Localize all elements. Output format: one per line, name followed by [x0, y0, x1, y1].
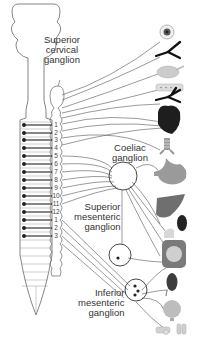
- svg-text:5: 5: [54, 152, 58, 159]
- heart-icon: [158, 106, 180, 134]
- svg-text:8: 8: [54, 176, 58, 183]
- spleen-icon: [177, 215, 187, 231]
- inferior-mesenteric-ganglion-label: Inferior mesenteric ganglion: [78, 288, 124, 318]
- preganglionic-fibers: [23, 124, 52, 238]
- liver-icon: [156, 194, 185, 218]
- svg-text:2: 2: [54, 224, 58, 231]
- sympathetic-nervous-system-diagram: 1 2 3 4 5 6 7 8 9 10 11 12 1 2 3: [0, 0, 197, 351]
- superior-mesenteric-ganglion-label: Superior mesenteric ganglion: [74, 202, 120, 232]
- inferior-mesenteric-ganglion: [125, 279, 147, 301]
- svg-text:1: 1: [54, 121, 58, 128]
- svg-text:11: 11: [53, 200, 60, 207]
- svg-text:3: 3: [54, 136, 58, 143]
- coeliac-ganglion-label: Coeliac ganglion: [112, 143, 148, 163]
- svg-text:6: 6: [54, 160, 58, 167]
- bladder-icon: [163, 300, 181, 321]
- pancreas-icon: [164, 228, 174, 238]
- vessel-icon: [156, 42, 180, 58]
- svg-text:3: 3: [54, 232, 58, 239]
- svg-text:7: 7: [54, 168, 58, 175]
- svg-text:9: 9: [54, 184, 58, 191]
- kidney-icon: [166, 273, 178, 296]
- svg-text:4: 4: [54, 144, 58, 151]
- superior-mesenteric-ganglion: [109, 244, 131, 266]
- stomach-icon: [154, 158, 186, 184]
- intestine-icon: [162, 240, 186, 268]
- gland-icon: [157, 66, 184, 78]
- svg-text:12: 12: [52, 208, 60, 215]
- superior-cervical-ganglion-label: Superior cervical ganglion: [44, 35, 80, 65]
- svg-text:10: 10: [52, 192, 60, 199]
- coeliac-ganglion: [109, 162, 137, 190]
- trachea-icon: [160, 138, 174, 154]
- eye-icon: [160, 25, 174, 39]
- svg-text:1: 1: [54, 216, 58, 223]
- segment-numbers: 1 2 3 4 5 6 7 8 9 10 11 12 1 2 3: [52, 121, 60, 239]
- svg-text:2: 2: [54, 129, 58, 136]
